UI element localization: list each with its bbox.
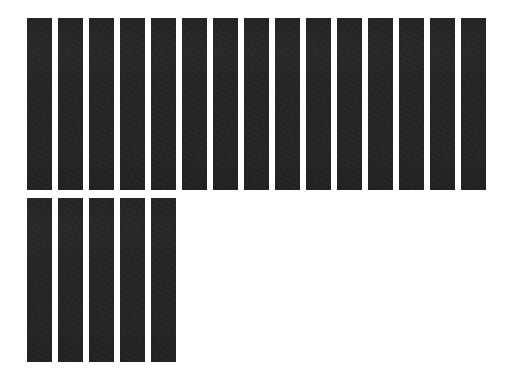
bar-8 [244,18,269,190]
bar-20 [151,198,176,362]
bar-16 [27,198,52,362]
bar-12 [368,18,393,190]
bar-18 [89,198,114,362]
bar-3 [89,18,114,190]
canvas [0,0,521,382]
bar-2 [58,18,83,190]
bar-6 [182,18,207,190]
bar-15 [461,18,486,190]
bar-14 [430,18,455,190]
bar-11 [337,18,362,190]
bar-row-bottom [27,198,176,362]
bar-7 [213,18,238,190]
bar-9 [275,18,300,190]
bar-19 [120,198,145,362]
bar-10 [306,18,331,190]
bar-4 [120,18,145,190]
bar-row-top [27,18,486,190]
bar-13 [399,18,424,190]
bar-17 [58,198,83,362]
bar-1 [27,18,52,190]
bar-5 [151,18,176,190]
